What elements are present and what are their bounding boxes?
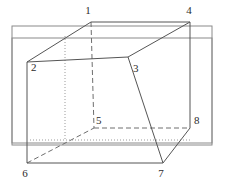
- vertex-label-6: 6: [22, 167, 28, 179]
- solid-edges-group: [27, 22, 190, 163]
- edge-2-1: [27, 22, 91, 62]
- rear-rectangle: [12, 26, 212, 143]
- dotted-hidden-edges-group: [30, 36, 190, 140]
- vertex-label-1: 1: [85, 4, 91, 16]
- vertex-label-3: 3: [133, 62, 139, 74]
- background-rectangles-group: [12, 26, 212, 145]
- edge-2-3: [27, 57, 128, 62]
- vertex-label-2: 2: [31, 61, 37, 73]
- vertex-label-4: 4: [186, 4, 192, 16]
- edge-3-4: [128, 22, 190, 57]
- front-rectangle: [12, 38, 212, 145]
- figure-container: 1 2 3 4 5 6 7 8: [0, 0, 225, 182]
- vertex-label-8: 8: [194, 114, 200, 126]
- dashed-hidden-edges-group: [27, 22, 190, 163]
- vertex-label-5: 5: [96, 114, 102, 126]
- vertex-label-7: 7: [158, 167, 164, 179]
- vertex-labels-group: 1 2 3 4 5 6 7 8: [22, 4, 200, 179]
- cube-diagram-svg: 1 2 3 4 5 6 7 8: [0, 0, 225, 182]
